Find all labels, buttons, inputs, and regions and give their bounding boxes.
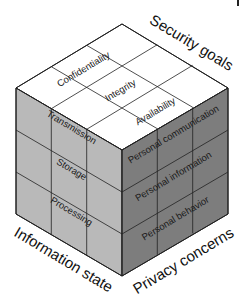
- cube-diagram: Confidentiality Integrity Availability T…: [0, 0, 242, 308]
